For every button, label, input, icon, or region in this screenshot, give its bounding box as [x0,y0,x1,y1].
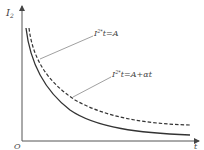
annotation-dashed: I2*t=A+αt [111,69,153,79]
curve-dashed [29,28,190,125]
y-axis-label: I2 [5,7,14,19]
leader-line-2 [73,77,111,97]
origin-label: O [14,142,21,150]
leader-line-1 [40,36,93,59]
chart: I2 O t I2*t=A I2*t=A+αt [0,0,204,150]
x-axis-label: t [194,142,198,150]
annotation-solid: I2*t=A [93,28,119,38]
curve-solid [26,28,190,135]
